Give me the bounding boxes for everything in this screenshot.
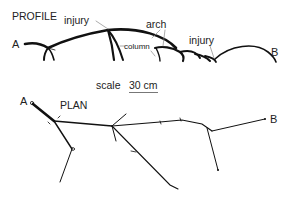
profile-root-left-1 bbox=[44, 48, 48, 60]
plan-node-b bbox=[264, 118, 266, 120]
diagram-canvas bbox=[0, 0, 289, 197]
leader-injury-2 bbox=[210, 46, 214, 58]
plan-branch-1 bbox=[54, 121, 72, 149]
profile-end-a: A bbox=[12, 39, 19, 50]
plan-branch-5 bbox=[207, 128, 218, 170]
scale-value: 30 cm bbox=[129, 80, 158, 93]
plan-end-b: B bbox=[270, 114, 277, 125]
plan-end-a: A bbox=[20, 96, 27, 107]
plan-node-5 bbox=[217, 169, 219, 171]
profile-end-b: B bbox=[271, 47, 278, 58]
plan-branch-1b bbox=[60, 149, 72, 182]
profile-title: PROFILE bbox=[12, 11, 57, 22]
plan-trunk-a bbox=[33, 104, 54, 121]
profile-column-3 bbox=[156, 48, 160, 61]
plan-view bbox=[30, 101, 266, 189]
label-arch: arch bbox=[146, 19, 166, 30]
plan-branch-2 bbox=[112, 114, 126, 126]
leader-injury-1 bbox=[96, 21, 108, 29]
profile-main-stem bbox=[25, 29, 176, 48]
label-column: column bbox=[124, 43, 150, 51]
plan-title: PLAN bbox=[60, 100, 87, 111]
profile-arch-5 bbox=[215, 46, 276, 62]
leader-column bbox=[151, 51, 155, 56]
plan-main-1 bbox=[54, 121, 112, 126]
label-injury-2: injury bbox=[189, 35, 214, 46]
plan-main-2 bbox=[112, 120, 212, 131]
plan-main-3 bbox=[212, 119, 265, 131]
scale-label: scale bbox=[96, 80, 121, 91]
label-injury-1: injury bbox=[64, 15, 89, 26]
plan-branch-4 bbox=[112, 126, 178, 189]
